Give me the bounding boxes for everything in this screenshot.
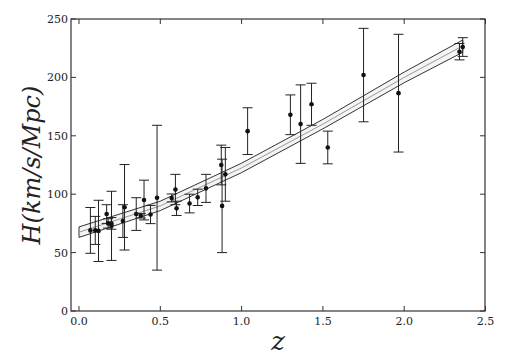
- y-tick-label: 150: [47, 130, 68, 143]
- y-axis-ticks: 050100150200250: [47, 13, 485, 318]
- data-point: [243, 108, 253, 155]
- x-tick-label: 1.5: [314, 315, 332, 328]
- hubble-parameter-chart: 0.00.51.01.52.02.5 050100150200250 z H(k…: [0, 0, 507, 363]
- y-tick-label: 250: [47, 13, 68, 26]
- data-point: [285, 95, 295, 135]
- y-tick-label: 0: [61, 305, 68, 318]
- x-tick-label: 0.0: [70, 315, 88, 328]
- y-tick-label: 50: [54, 247, 68, 260]
- x-axis-label: z: [270, 326, 285, 356]
- data-point: [394, 34, 404, 152]
- y-tick-label: 200: [47, 71, 68, 84]
- data-point: [152, 125, 162, 270]
- data-point: [323, 131, 333, 164]
- data-point: [307, 83, 317, 125]
- x-tick-label: 0.5: [152, 315, 170, 328]
- y-axis-label: H(km/s/Mpc): [18, 86, 46, 246]
- data-point: [296, 85, 306, 163]
- x-tick-label: 2.0: [395, 315, 413, 328]
- x-tick-label: 1.0: [233, 315, 251, 328]
- x-tick-label: 2.5: [477, 315, 495, 328]
- y-tick-label: 100: [47, 188, 68, 201]
